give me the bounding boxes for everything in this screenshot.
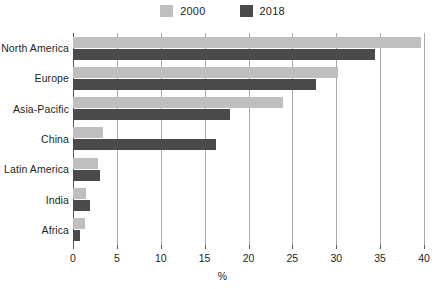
bar-group <box>73 94 424 124</box>
legend-swatch-2000 <box>160 5 173 17</box>
y-axis-label: India <box>0 184 69 214</box>
bar-2000 <box>73 127 103 138</box>
x-axis-tick-label: 25 <box>272 252 312 265</box>
chart-legend: 2000 2018 <box>0 2 445 20</box>
legend-entry-2000: 2000 <box>160 5 205 17</box>
x-axis-tick <box>292 245 293 249</box>
bar-group <box>73 184 424 214</box>
bar-group <box>73 124 424 154</box>
legend-entry-2018: 2018 <box>240 5 285 17</box>
x-axis-tick-label: 20 <box>229 252 269 265</box>
bar-2018 <box>73 109 230 120</box>
x-axis-tick <box>161 245 162 249</box>
legend-swatch-2018 <box>240 5 253 17</box>
bar-group <box>73 33 424 63</box>
y-axis-label: Africa <box>0 215 69 245</box>
plot-area <box>73 33 424 245</box>
bar-rows <box>73 33 424 245</box>
bar-group <box>73 154 424 184</box>
bar-2018 <box>73 49 375 60</box>
x-axis-tick <box>336 245 337 249</box>
x-axis-tick <box>380 245 381 249</box>
bar-2000 <box>73 218 85 229</box>
bar-2000 <box>73 188 86 199</box>
bar-group <box>73 215 424 245</box>
x-axis-tick <box>117 245 118 249</box>
bar-2000 <box>73 158 98 169</box>
gridline-40 <box>424 33 425 245</box>
x-axis-tick-label: 30 <box>316 252 356 265</box>
bar-chart: 2000 2018 North AmericaEuropeAsia-Pacifi… <box>0 0 445 289</box>
x-axis-tick-label: 0 <box>53 252 93 265</box>
y-axis-label: Asia-Pacific <box>0 94 69 124</box>
y-axis-label: Europe <box>0 63 69 93</box>
x-axis-tick-label: 5 <box>97 252 137 265</box>
x-axis-tick <box>249 245 250 249</box>
bar-2018 <box>73 200 90 211</box>
y-axis-label: Latin America <box>0 154 69 184</box>
y-axis-category-labels: North AmericaEuropeAsia-PacificChinaLati… <box>0 33 69 245</box>
bar-2018 <box>73 79 316 90</box>
bar-2000 <box>73 37 421 48</box>
x-axis-tick <box>424 245 425 249</box>
x-axis-tick <box>73 245 74 249</box>
legend-label-2000: 2000 <box>180 5 205 17</box>
x-axis-tick-label: 10 <box>141 252 181 265</box>
bar-group <box>73 63 424 93</box>
y-axis-label: China <box>0 124 69 154</box>
bar-2018 <box>73 230 80 241</box>
legend-label-2018: 2018 <box>260 5 285 17</box>
x-axis-tick-label: 15 <box>185 252 225 265</box>
x-axis-tick <box>205 245 206 249</box>
bar-2018 <box>73 170 100 181</box>
x-axis-tick-label: 35 <box>360 252 400 265</box>
x-axis-title: % <box>0 270 445 283</box>
x-axis-tick-label: 40 <box>404 252 444 265</box>
bar-2018 <box>73 139 216 150</box>
bar-2000 <box>73 97 283 108</box>
bar-2000 <box>73 67 338 78</box>
y-axis-label: North America <box>0 33 69 63</box>
